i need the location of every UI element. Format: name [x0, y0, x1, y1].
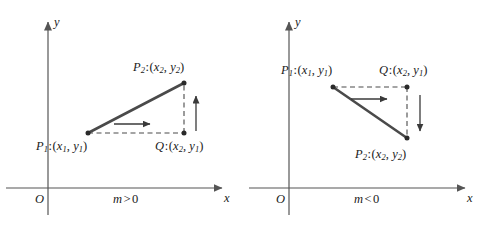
panel-positive-slope: P2:(x2, y2) P1:(x1, y1) Q:(x2, y1) y x O… — [0, 0, 243, 230]
point-label-q: Q:(x2, y1) — [155, 140, 204, 154]
x-axis-label: x — [224, 192, 230, 205]
slope-caption: m>0 — [113, 193, 138, 206]
y-axis-label: y — [295, 16, 301, 29]
line-segment-p1-p2 — [88, 83, 184, 133]
slope-caption: m<0 — [354, 193, 379, 206]
point-dot-p1 — [331, 85, 336, 90]
origin-label: O — [35, 193, 44, 206]
panel-negative-slope: P1:(x1, y1) Q:(x2, y1) P2:(x2, y2) y x O… — [243, 0, 485, 230]
point-dot-p1 — [86, 131, 91, 136]
point-label-q: Q:(x2, y1) — [379, 64, 428, 78]
point-dot-q — [405, 85, 410, 90]
point-label-p1: P1:(x1, y1) — [36, 140, 87, 154]
slope-figure: P2:(x2, y2) P1:(x1, y1) Q:(x2, y1) y x O… — [0, 0, 485, 230]
point-label-p2: P2:(x2, y2) — [355, 148, 406, 162]
point-dot-q — [182, 131, 187, 136]
line-segment-p1-p2 — [333, 87, 407, 138]
point-dot-p2 — [405, 136, 410, 141]
y-axis-label: y — [54, 16, 60, 29]
point-label-p1: P1:(x1, y1) — [281, 64, 332, 78]
point-label-p2: P2:(x2, y2) — [133, 61, 184, 75]
point-dot-p2 — [182, 81, 187, 86]
x-axis-label: x — [467, 192, 473, 205]
origin-label: O — [276, 193, 285, 206]
